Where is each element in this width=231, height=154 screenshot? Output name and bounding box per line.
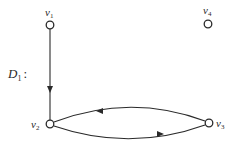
- vertex-v4: v4: [203, 4, 212, 28]
- vertex-v1: v1: [45, 6, 54, 29]
- arrow-down-icon: [47, 86, 53, 93]
- vertex-v2: v2: [31, 118, 54, 132]
- edge-v1-v2: [47, 29, 53, 120]
- vertex-v3: v3: [205, 117, 225, 131]
- vertex-label-v4: v4: [203, 4, 212, 18]
- arrow-left-icon: [96, 108, 103, 114]
- vertex-label-v1: v1: [45, 6, 54, 20]
- graph-name-label: D1:: [7, 66, 27, 83]
- edge-v3-v2: [54, 107, 205, 122]
- edge-v2-v3: [54, 125, 205, 139]
- vertex-label-v3: v3: [216, 117, 225, 131]
- digraph-d1: D1: v1 v4 v2 v3: [0, 0, 231, 154]
- vertex-label-v2: v2: [31, 118, 40, 132]
